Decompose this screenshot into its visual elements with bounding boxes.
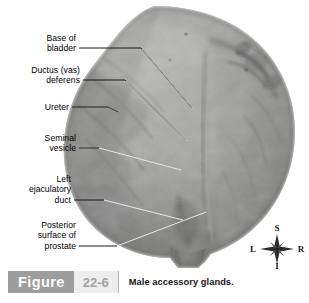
label-seminal-vesicle: Seminal vesicle: [0, 133, 76, 154]
figure-caption-text: Male accessory glands.: [119, 271, 234, 293]
compass-label-left: L: [250, 244, 256, 254]
label-posterior-surface-of-prostate: Posterior surface of prostate: [0, 220, 76, 251]
compass-label-inferior: I: [275, 261, 279, 271]
figure-number: 22-6: [74, 271, 119, 293]
label-ductus-vas-deferens: Ductus (vas) deferens: [0, 65, 80, 86]
label-ureter: Ureter: [0, 102, 69, 112]
label-base-of-bladder: Base of bladder: [0, 33, 76, 54]
label-left-ejaculatory-duct: Left ejaculatory duct: [0, 174, 71, 205]
compass-label-right: R: [298, 244, 305, 254]
compass-star: [260, 234, 294, 264]
figure-22-6: Base of bladder Ductus (vas) deferens Ur…: [0, 0, 309, 303]
figure-caption-bar: Figure 22-6 Male accessory glands.: [8, 271, 234, 293]
compass-rose: S I L R: [249, 219, 305, 271]
compass-label-superior: S: [274, 223, 279, 233]
figure-badge-label: Figure: [8, 271, 74, 293]
